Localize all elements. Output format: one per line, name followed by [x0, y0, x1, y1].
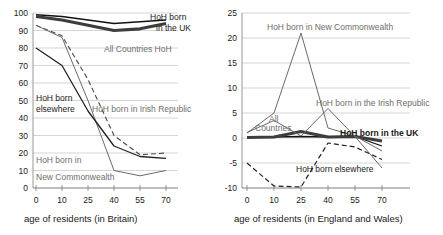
annotations-left: HoH bornin the UKAll Countries HoHHoH bo… [36, 12, 192, 182]
series-annotation-label: HoH born in Irish Republic [92, 104, 192, 114]
y-tick-label: 15 [228, 58, 238, 68]
y-tick-label: 0 [23, 183, 28, 193]
annotations-right: HoH born in New CommonwealthHoH born in … [255, 22, 430, 174]
x-axis-caption-britain: age of residents (in Britain) [24, 213, 138, 224]
y-tick-label: 0 [232, 133, 237, 143]
y-tick-label: 25 [228, 8, 238, 18]
y-tick-label: 70 [19, 61, 29, 71]
y-tick-label: 20 [19, 148, 29, 158]
series-annotation-label: in the UK [156, 23, 191, 33]
series-annotation-label: HoH born in the UK [340, 128, 419, 138]
y-tick-label: 40 [19, 113, 29, 123]
x-tick-label: 25 [83, 195, 93, 205]
x-tick-label: 10 [269, 195, 279, 205]
x-tick-label: 70 [377, 195, 387, 205]
x-axis-labels-left: 01025405570 [34, 195, 171, 205]
series-annotation-label: HoH born [150, 12, 187, 22]
series-annotation-label: HoH born elsewhere [296, 164, 374, 174]
series-annotation-label: HoH born in [36, 155, 82, 165]
y-tick-label: 50 [19, 96, 29, 106]
y-axis-labels-left: 0102030405060708090100 [14, 8, 28, 193]
y-tick-label: 10 [228, 83, 238, 93]
x-tick-label: 40 [109, 195, 119, 205]
y-tick-label: 100 [14, 8, 28, 18]
x-tick-label: 0 [34, 195, 39, 205]
line-chart-britain: 0102030405060708090100 01025405570 HoH b… [0, 0, 222, 235]
y-tick-label: -5 [229, 158, 237, 168]
line-chart-england-wales: -10-50510152025 01025405570 HoH born in … [220, 0, 443, 235]
chart-panel-england-wales: -10-50510152025 01025405570 HoH born in … [220, 0, 442, 235]
x-tick-label: 40 [323, 195, 333, 205]
x-tick-label: 55 [135, 195, 145, 205]
y-tick-label: 10 [19, 166, 29, 176]
y-tick-label: 20 [228, 33, 238, 43]
x-tick-label: 25 [296, 195, 306, 205]
x-axis-labels-right: 01025405570 [245, 195, 387, 205]
y-tick-label: 80 [19, 43, 29, 53]
y-axis-labels-right: -10-50510152025 [225, 8, 238, 193]
y-tick-label: 5 [232, 108, 237, 118]
series-annotation-label: New Commonwealth [36, 172, 115, 182]
series-annotation-label: All Countries HoH [104, 44, 172, 54]
series-annotation-label: HoH born in the Irish Republic [316, 98, 430, 108]
y-tick-label: -10 [225, 183, 238, 193]
series-annotation-label: elsewhere [36, 104, 75, 114]
figure-container: 0102030405060708090100 01025405570 HoH b… [0, 0, 443, 235]
x-axis-caption-england-wales: age of residents (in England and Wales) [234, 213, 403, 224]
series-annotation-label: HoH born in New Commonwealth [267, 22, 393, 32]
x-tick-label: 10 [57, 195, 67, 205]
series-line [36, 17, 166, 31]
chart-panel-britain: 0102030405060708090100 01025405570 HoH b… [0, 0, 222, 235]
series-annotation-label: HoH born [36, 93, 73, 103]
x-tick-label: 55 [350, 195, 360, 205]
y-tick-label: 90 [19, 26, 29, 36]
y-tick-label: 30 [19, 131, 29, 141]
x-tick-label: 0 [245, 195, 250, 205]
y-tick-label: 60 [19, 78, 29, 88]
x-tick-label: 70 [161, 195, 171, 205]
series-annotation-label: Countries [255, 123, 291, 133]
